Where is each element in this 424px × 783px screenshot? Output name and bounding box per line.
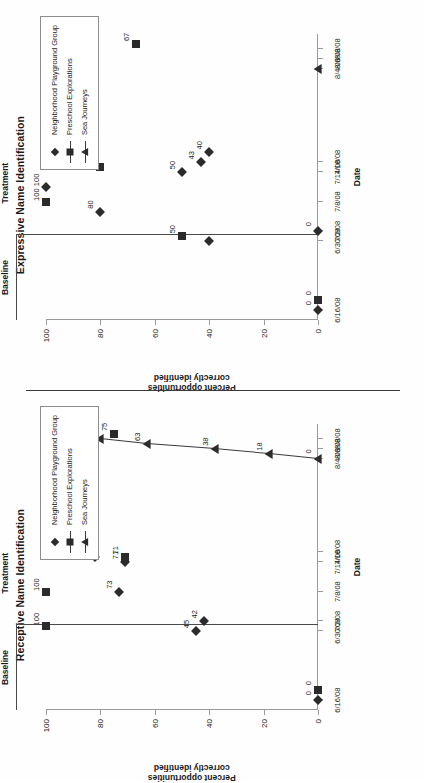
y-axis-tick-label: 0 [314, 329, 323, 333]
y-axis-title-line2: correctly identified [154, 373, 230, 383]
data-point-square-marker [42, 588, 50, 596]
data-point-square-marker [314, 686, 322, 694]
legend-item: Preschool Explorations [62, 25, 77, 163]
x-axis-tick-label: 7/8/08 [333, 191, 342, 212]
data-point-diamond-marker [95, 207, 105, 217]
x-axis-tick-label: 7/16/08 [333, 540, 342, 565]
legend-item: Neighborhood Playground Group [47, 415, 62, 553]
y-axis-tick [46, 320, 47, 325]
data-point-triangle-marker [142, 439, 150, 449]
legend-item: Sea Journeys [77, 415, 92, 553]
x-axis-tick [318, 58, 323, 59]
y-axis-tick-label: 60 [150, 719, 159, 728]
y-axis-title-line1: Percent opportunities [148, 773, 236, 783]
x-axis-tick [318, 240, 323, 241]
data-point-value-label: 45 [182, 620, 191, 628]
y-axis-tick [100, 710, 101, 715]
legend-receptive: Neighborhood Playground GroupPreschool E… [40, 406, 99, 560]
panel-divider [26, 390, 400, 391]
diamond-marker [49, 141, 60, 163]
data-point-square-marker [132, 40, 140, 48]
triangle-marker [79, 141, 90, 163]
y-axis-tick [209, 710, 210, 715]
square-marker [64, 531, 75, 553]
legend-marker-glyph [66, 149, 73, 156]
data-point-value-label: 0 [304, 449, 313, 453]
phase-label-baseline: Baseline [0, 260, 10, 295]
x-axis-tick [318, 551, 323, 552]
data-point-triangle-marker [265, 449, 273, 459]
x-axis-tick [318, 161, 323, 162]
x-axis-tick-label: 7/2/08 [333, 611, 342, 632]
x-axis-title: Date [352, 34, 424, 320]
y-axis-tick [155, 320, 156, 325]
phase-label-treatment: Treatment [0, 553, 10, 594]
legend-item: Sea Journeys [77, 25, 92, 163]
y-axis-tick-label: 80 [96, 329, 105, 338]
legend-item: Neighborhood Playground Group [47, 25, 62, 163]
data-point-diamond-marker [313, 305, 323, 315]
y-axis-tick [100, 320, 101, 325]
y-axis-tick-label: 40 [205, 329, 214, 338]
data-point-value-label: 42 [190, 610, 199, 618]
x-axis-tick [318, 620, 323, 621]
data-point-value-label: 18 [255, 442, 264, 450]
y-axis-tick-label: 20 [259, 329, 268, 338]
x-axis-tick [318, 171, 323, 172]
x-axis-tick-label: 8/8/08 [333, 428, 342, 449]
y-axis-line [46, 709, 318, 710]
data-point-value-label: 43 [187, 151, 196, 159]
y-axis-title: Percent opportunitiescorrectly identifie… [92, 372, 292, 392]
data-point-diamond-marker [313, 695, 323, 705]
data-point-diamond-marker [204, 147, 214, 157]
phase-change-line [16, 234, 318, 235]
y-axis-tick-label: 20 [259, 719, 268, 728]
chart-panel-expressive: Expressive Name Identification 6/16/086/… [0, 0, 424, 390]
legend-marker-glyph [50, 148, 58, 156]
page-title-receptive: Receptive Name Identification [14, 390, 26, 780]
legend-expressive: Neighborhood Playground GroupPreschool E… [40, 16, 99, 170]
y-axis-tick-label: 40 [205, 719, 214, 728]
data-point-value-label: 0 [304, 301, 313, 305]
y-axis-line [46, 319, 318, 320]
data-point-value-label: 0 [304, 681, 313, 685]
x-axis-line [317, 34, 318, 320]
y-axis-tick [318, 710, 319, 715]
x-axis-title: Date [352, 424, 424, 710]
data-point-value-label: 0 [304, 222, 313, 226]
data-point-square-marker [121, 553, 129, 561]
data-point-diamond-marker [191, 626, 201, 636]
legend-marker-glyph [81, 538, 88, 546]
phase-label-baseline: Baseline [0, 650, 10, 685]
x-axis-tick [318, 448, 323, 449]
x-axis-tick [318, 561, 323, 562]
x-axis-tick-label: 6/16/08 [333, 298, 342, 323]
legend-marker-glyph [50, 538, 58, 546]
x-axis-tick-label: 7/16/08 [333, 150, 342, 175]
y-axis-title-line2: correctly identified [154, 763, 230, 773]
data-point-square-marker [110, 430, 118, 438]
data-point-value-label: 50 [168, 161, 177, 169]
data-point-value-label: 63 [133, 433, 142, 441]
x-axis-tick [318, 438, 323, 439]
data-point-value-label: 80 [86, 200, 95, 208]
data-point-value-label: 0 [304, 691, 313, 695]
y-axis-tick [264, 710, 265, 715]
x-axis-tick [318, 48, 323, 49]
data-point-triangle-marker [314, 64, 322, 74]
data-point-value-label: 100 [32, 188, 41, 201]
data-point-square-marker [42, 622, 50, 630]
phase-change-line [16, 624, 318, 625]
diamond-marker [49, 531, 60, 553]
data-point-square-marker [42, 198, 50, 206]
y-axis-tick [318, 320, 319, 325]
data-point-diamond-marker [114, 587, 124, 597]
y-axis-title: Percent opportunitiescorrectly identifie… [92, 762, 292, 782]
legend-item-label: Preschool Explorations [65, 448, 74, 525]
phase-change-line-horizontal [16, 625, 17, 710]
legend-marker-glyph [81, 148, 88, 156]
legend-item-label: Preschool Explorations [65, 58, 74, 135]
legend-item-label: Sea Journeys [80, 479, 89, 525]
y-axis-tick-label: 0 [314, 719, 323, 723]
x-axis-tick-label: 8/8/08 [333, 38, 342, 59]
